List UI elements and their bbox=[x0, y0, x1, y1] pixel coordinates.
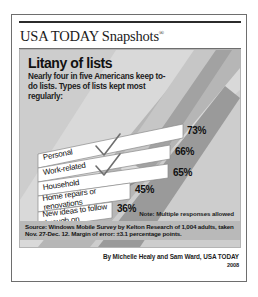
chart-panel: Litany of lists Nearly four in five Amer… bbox=[19, 49, 241, 248]
value-label-new-ideas: 36% bbox=[117, 203, 136, 214]
byline-credit: By Michelle Healy and Sam Ward, USA TODA… bbox=[103, 253, 239, 260]
value-label-home-repairs: 45% bbox=[135, 184, 154, 195]
snapshot-card: USA TODAY Snapshots® bbox=[11, 14, 247, 282]
chart-note: Note: Multiple responses allowed bbox=[139, 210, 234, 217]
byline: By Michelle Healy and Sam Ward, USA TODA… bbox=[103, 253, 239, 268]
page-title: Litany of lists bbox=[28, 55, 112, 71]
value-label-household: 65% bbox=[173, 167, 192, 178]
masthead-brand: USA TODAY Snapshots bbox=[20, 28, 159, 44]
subtitle: Nearly four in five Americans keep to-do… bbox=[28, 72, 168, 103]
chart-source: Source: Windows Mobile Survey by Kelton … bbox=[20, 221, 240, 240]
masthead: USA TODAY Snapshots® bbox=[19, 21, 241, 47]
byline-year: 2008 bbox=[103, 262, 239, 268]
value-label-personal: 73% bbox=[187, 125, 206, 136]
registered-mark-icon: ® bbox=[159, 29, 164, 37]
masthead-title: USA TODAY Snapshots® bbox=[20, 28, 164, 45]
value-label-work-related: 66% bbox=[175, 146, 194, 157]
